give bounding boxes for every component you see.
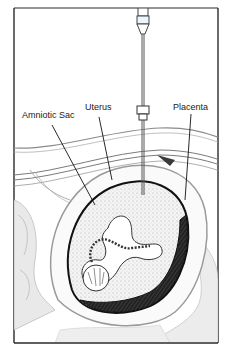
amniocentesis-diagram: Amniotic Sac Uterus Placenta (0, 0, 226, 345)
illustration (0, 0, 226, 345)
label-uterus: Uterus (85, 102, 112, 112)
label-placenta: Placenta (173, 102, 208, 112)
label-amniotic-sac: Amniotic Sac (22, 110, 75, 120)
